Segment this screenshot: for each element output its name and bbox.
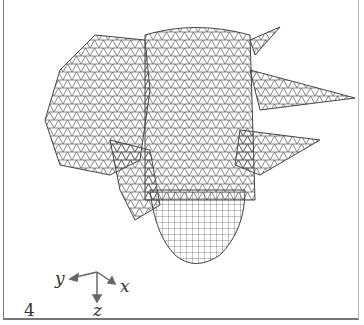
hub	[145, 28, 255, 201]
axis-triad	[70, 272, 115, 302]
hub-cone	[150, 190, 245, 264]
y-axis-label: y	[55, 268, 65, 288]
z-axis-label: z	[93, 300, 102, 320]
x-axis-label: x	[120, 276, 130, 296]
blade-right	[250, 70, 355, 110]
panel-label: 4	[24, 300, 35, 320]
blade-top-right	[250, 27, 280, 55]
